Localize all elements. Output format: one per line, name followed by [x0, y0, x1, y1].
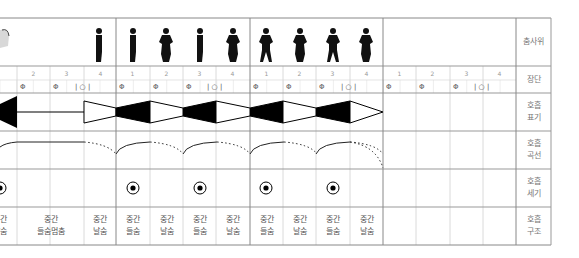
- beat-number: 4: [350, 66, 383, 80]
- dancer-figure-icon: [159, 28, 173, 62]
- breath-curve-dotted: [350, 142, 383, 168]
- jangdan-symbol-hap: Φ: [419, 80, 425, 93]
- breath-curve-dotted: [217, 142, 250, 154]
- beat-number: 1: [250, 66, 283, 80]
- breath-structure-cell: 중간 들숨멈춤: [17, 207, 84, 245]
- jangdan-symbol-hap: Φ: [153, 80, 159, 93]
- inhale-wedge-icon: [0, 96, 17, 128]
- beat-number: 4: [84, 66, 117, 80]
- jangdan-symbol-hap: Φ: [286, 80, 292, 93]
- breath-curve-dotted: [350, 142, 383, 154]
- jangdan-symbol-hap: Φ: [119, 80, 125, 93]
- breath-structure-cell: 중간 들숨: [116, 207, 150, 245]
- breath-curve-solid: [116, 142, 150, 154]
- beat-number: 4: [483, 66, 516, 80]
- row-label-breath-curve: 호흡 곡선: [516, 131, 551, 169]
- jangdan-symbol-hap: Φ: [53, 80, 59, 93]
- exhale-wedge-icon: [150, 101, 183, 123]
- beat-number: 3: [50, 66, 83, 80]
- breath-curve-solid: [183, 142, 217, 154]
- breathing-notation-chart: 춤사위장단호흡 표기호흡 곡선호흡 세기호흡 구조 23412341234123…: [0, 0, 579, 258]
- breath-structure-cell: 중간 날숨: [0, 207, 16, 245]
- inhale-wedge-icon: [183, 101, 216, 123]
- jangdan-symbol-hap: Φ: [453, 80, 459, 93]
- row-label-dance-pose: 춤사위: [516, 18, 551, 66]
- breath-structure-cell: 중간 날숨: [84, 207, 116, 245]
- breath-structure-cell: 중간 들숨: [250, 207, 283, 245]
- exhale-wedge-icon: [84, 101, 116, 123]
- breath-structure-cell: 중간 들숨: [316, 207, 350, 245]
- beat-number: 2: [416, 66, 449, 80]
- jangdan-symbol-deok: | ○ |: [474, 80, 489, 93]
- exhale-wedge-icon: [283, 101, 316, 123]
- beat-number: 1: [116, 66, 149, 80]
- dancer-figure-icon: [96, 28, 102, 62]
- intensity-dot: [263, 185, 268, 190]
- beat-number: 4: [216, 66, 249, 80]
- dancer-figure-icon: [293, 28, 307, 62]
- breath-structure-cell: 중간 날숨: [283, 207, 316, 245]
- jangdan-symbol-hap: Φ: [386, 80, 392, 93]
- dancer-figure-icon: [326, 28, 340, 62]
- exhale-wedge-icon: [216, 101, 250, 123]
- breath-structure-cell: 중간 날숨: [216, 207, 250, 245]
- breath-curve-solid: [250, 142, 284, 154]
- dancer-figure-icon: [226, 28, 240, 62]
- row-label-breath-intensity: 호흡 세기: [516, 169, 551, 207]
- dancer-figure-icon: [130, 28, 136, 62]
- intensity-dot: [130, 185, 135, 190]
- breath-curve-dotted: [150, 142, 183, 154]
- intensity-dot: [197, 185, 202, 190]
- dancer-figure-icon: [259, 28, 273, 62]
- jangdan-symbol-hap: Φ: [20, 80, 26, 93]
- jangdan-symbol-hap: Φ: [253, 80, 259, 93]
- beat-number: 2: [150, 66, 183, 80]
- breath-curve-solid: [0, 142, 84, 147]
- beat-number: 3: [316, 66, 349, 80]
- row-label-breath-notation: 호흡 표기: [516, 93, 551, 131]
- inhale-wedge-icon: [316, 101, 350, 123]
- breath-curve-dotted: [84, 142, 116, 154]
- beat-number: 3: [183, 66, 216, 80]
- beat-number: 1: [383, 66, 416, 80]
- breath-curve-dotted: [284, 142, 317, 154]
- exhale-arrow-icon: [350, 101, 383, 123]
- jangdan-symbol-hap: Φ: [186, 80, 192, 93]
- jangdan-symbol-deok: | ○ |: [207, 80, 222, 93]
- row-label-breath-structure: 호흡 구조: [516, 207, 551, 245]
- inhale-wedge-icon: [250, 101, 283, 123]
- row-label-jangdan: 장단: [516, 66, 551, 93]
- beat-number: 2: [283, 66, 316, 80]
- jangdan-symbol-deok: | ○ |: [75, 80, 90, 93]
- jangdan-symbol-hap: Φ: [319, 80, 325, 93]
- breath-structure-cell: 중간 날숨: [150, 207, 183, 245]
- jangdan-symbol-deok: | ○ |: [341, 80, 356, 93]
- beat-number: 2: [17, 66, 50, 80]
- dancer-figure-icon: [197, 28, 203, 62]
- breath-curve-solid: [316, 142, 350, 154]
- intensity-dot: [330, 185, 335, 190]
- inhale-wedge-icon: [116, 101, 150, 123]
- dancer-figure-icon: [359, 28, 373, 62]
- beat-number: 3: [450, 66, 483, 80]
- breath-structure-cell: 중간 날숨: [350, 207, 383, 245]
- breath-structure-cell: 중간 들숨: [183, 207, 216, 245]
